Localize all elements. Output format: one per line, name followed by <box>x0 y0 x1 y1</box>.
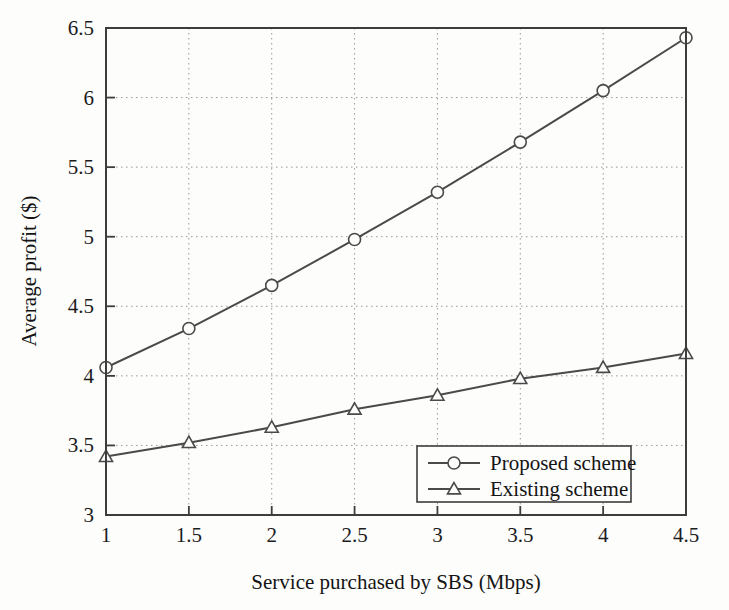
circle-marker <box>349 233 361 245</box>
circle-marker <box>448 457 460 469</box>
y-tick-label: 6.5 <box>68 16 94 40</box>
x-axis-title: Service purchased by SBS (Mbps) <box>251 570 540 594</box>
circle-marker <box>597 85 609 97</box>
legend-label: Existing scheme <box>490 477 628 501</box>
x-tick-label: 3.5 <box>507 523 533 547</box>
x-tick-label: 4.5 <box>673 523 699 547</box>
circle-marker <box>266 279 278 291</box>
y-tick-label: 4.5 <box>68 294 94 318</box>
x-tick-label: 2 <box>266 523 277 547</box>
line-chart: 33.544.555.566.511.522.533.544.5 Service… <box>0 0 729 610</box>
x-tick-label: 3 <box>432 523 443 547</box>
x-tick-label: 1.5 <box>176 523 202 547</box>
circle-marker <box>514 136 526 148</box>
y-tick-label: 4 <box>84 364 95 388</box>
y-axis-title: Average profit ($) <box>17 195 41 346</box>
x-tick-label: 4 <box>598 523 609 547</box>
y-tick-label: 5.5 <box>68 155 94 179</box>
y-tick-label: 3.5 <box>68 433 94 457</box>
y-tick-label: 3 <box>84 503 95 527</box>
legend[interactable]: Proposed schemeExisting scheme <box>417 446 636 502</box>
x-tick-label: 2.5 <box>341 523 367 547</box>
y-tick-label: 6 <box>84 86 95 110</box>
legend-label: Proposed scheme <box>490 451 636 475</box>
circle-marker <box>431 186 443 198</box>
chart-page: 33.544.555.566.511.522.533.544.5 Service… <box>0 0 729 610</box>
circle-marker <box>183 323 195 335</box>
y-tick-label: 5 <box>84 225 95 249</box>
x-tick-label: 1 <box>101 523 112 547</box>
